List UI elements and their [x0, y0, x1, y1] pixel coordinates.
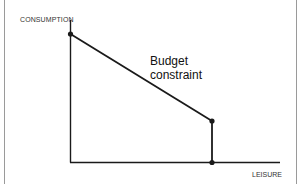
budget-constraint-annotation: Budget constraint	[150, 54, 202, 82]
y-axis-label: CONSUMPTION	[20, 16, 74, 23]
top-point	[68, 31, 73, 36]
bottom-point	[209, 160, 214, 165]
x-axis-label: LEISURE	[252, 171, 282, 178]
annotation-line-1: Budget	[150, 54, 202, 68]
budget-constraint-diagram	[0, 0, 304, 184]
kink-point	[209, 118, 214, 123]
annotation-line-2: constraint	[150, 68, 202, 82]
